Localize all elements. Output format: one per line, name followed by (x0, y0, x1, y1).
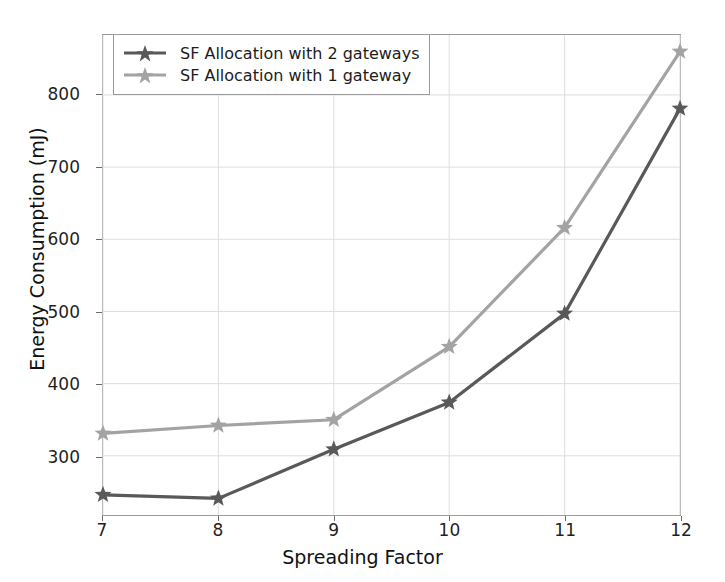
y-tick-label: 300 (48, 447, 80, 467)
y-tick-label: 600 (48, 229, 80, 249)
legend-item-0[interactable]: SF Allocation with 2 gateways (122, 42, 419, 64)
legend-marker-line-icon-1 (122, 65, 168, 85)
legend-item-1[interactable]: SF Allocation with 1 gateway (122, 64, 419, 86)
chart-legend: SF Allocation with 2 gateways SF Allocat… (113, 34, 430, 95)
series-marker (325, 440, 342, 456)
y-tick-label: 400 (48, 374, 80, 394)
x-tick-label: 11 (554, 520, 576, 540)
y-axis-tick-labels: 300400500600700800 (0, 34, 94, 516)
series-line (103, 109, 680, 499)
y-tick-label: 800 (48, 84, 80, 104)
x-axis-tick-labels: 789101112 (102, 520, 681, 546)
y-tick-label: 700 (48, 157, 80, 177)
y-tick-label: 500 (48, 302, 80, 322)
data-series-layer (103, 35, 680, 515)
x-tick-label: 8 (212, 520, 223, 540)
y-axis-tick-marks (94, 34, 102, 516)
plot-area (102, 34, 681, 516)
chart-figure: Energy Consumption (mJ) 3004005006007008… (0, 0, 725, 582)
series-marker (325, 411, 342, 427)
series-marker (210, 417, 227, 433)
x-tick-label: 7 (97, 520, 108, 540)
series-marker (210, 489, 227, 505)
x-tick-label: 10 (439, 520, 461, 540)
legend-label-0: SF Allocation with 2 gateways (180, 44, 419, 63)
x-tick-label: 9 (328, 520, 339, 540)
legend-marker-line-icon-0 (122, 43, 168, 63)
x-tick-label: 12 (670, 520, 692, 540)
series-line (103, 52, 680, 434)
legend-label-1: SF Allocation with 1 gateway (180, 66, 411, 85)
x-axis-title: Spreading Factor (0, 546, 725, 568)
series-0 (94, 100, 688, 506)
series-1 (94, 43, 688, 441)
